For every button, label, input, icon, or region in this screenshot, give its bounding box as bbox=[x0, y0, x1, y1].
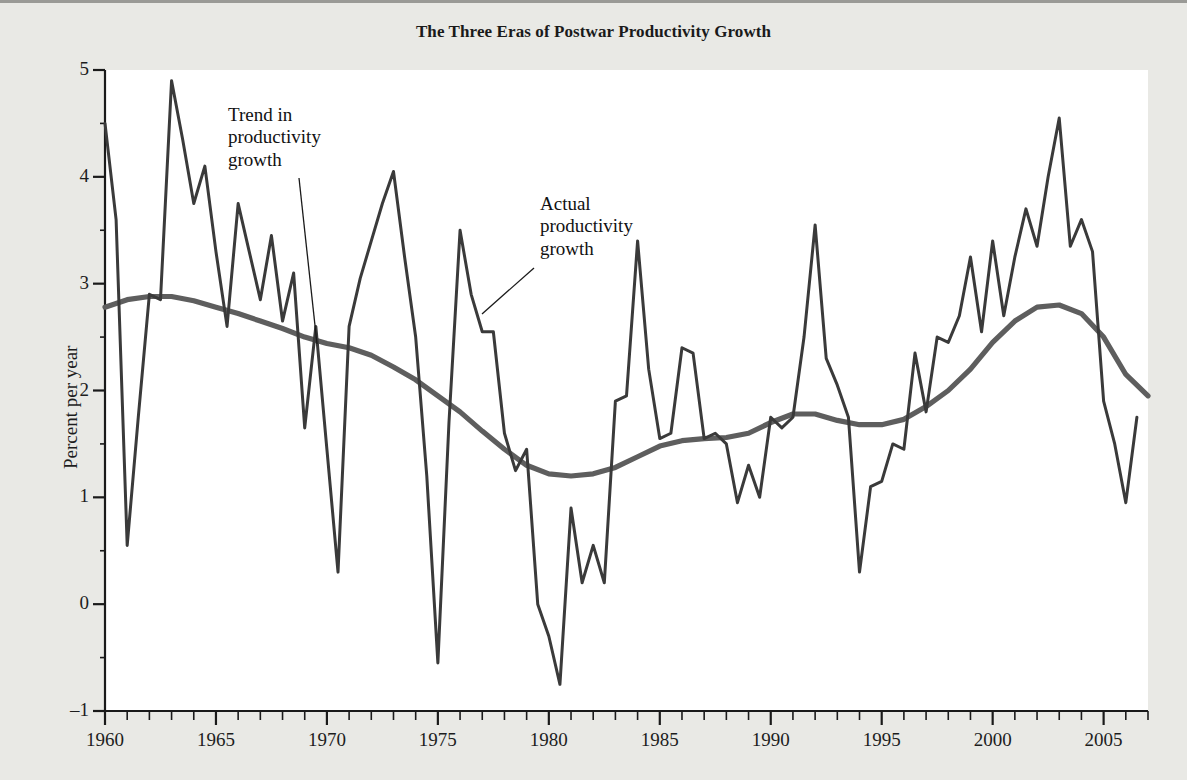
y-tick-label: 4 bbox=[37, 165, 89, 187]
y-tick-label: 3 bbox=[37, 272, 89, 294]
x-tick-label: 1995 bbox=[837, 729, 927, 751]
y-tick-label: –1 bbox=[37, 699, 89, 721]
trend-annotation-leader-line bbox=[299, 178, 317, 344]
y-tick-label: 1 bbox=[37, 485, 89, 507]
actual-series-group bbox=[105, 81, 1137, 685]
actual-annotation-leader-line bbox=[482, 268, 534, 314]
x-tick-label: 1980 bbox=[504, 729, 594, 751]
chart-svg bbox=[0, 0, 1187, 780]
x-tick-label: 1975 bbox=[393, 729, 483, 751]
y-tick-label: 2 bbox=[37, 379, 89, 401]
x-tick-label: 1990 bbox=[726, 729, 816, 751]
x-tick-label: 1970 bbox=[282, 729, 372, 751]
x-tick-label: 1965 bbox=[171, 729, 261, 751]
y-tick-label: 0 bbox=[37, 592, 89, 614]
actual-annotation: Actual productivity growth bbox=[540, 193, 633, 260]
annotation-leaders-group bbox=[299, 178, 534, 344]
x-tick-label: 2005 bbox=[1059, 729, 1149, 751]
y-tick-label: 5 bbox=[37, 58, 89, 80]
x-tick-label: 2000 bbox=[948, 729, 1038, 751]
trend-annotation: Trend in productivity growth bbox=[228, 104, 321, 171]
x-tick-label: 1985 bbox=[615, 729, 705, 751]
x-tick-label: 1960 bbox=[60, 729, 150, 751]
figure-page: The Three Eras of Postwar Productivity G… bbox=[0, 0, 1187, 780]
y-axis-label: Percent per year bbox=[60, 345, 82, 468]
